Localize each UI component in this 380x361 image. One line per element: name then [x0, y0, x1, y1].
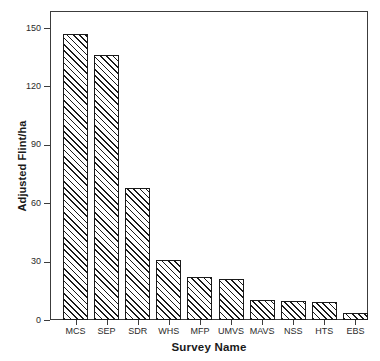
y-tick-label: 120 — [1, 82, 41, 91]
bar-mfp — [187, 277, 212, 320]
x-tick-mark — [138, 320, 139, 325]
bar-sep — [94, 55, 119, 320]
x-tick-label-ebs: EBS — [332, 327, 378, 336]
x-tick-mark — [169, 320, 170, 325]
y-tick-mark — [44, 86, 50, 87]
y-tick-mark — [44, 203, 50, 204]
y-tick-label: 30 — [1, 257, 41, 266]
y-tick-label: 60 — [1, 199, 41, 208]
x-tick-mark — [293, 320, 294, 325]
x-tick-mark — [262, 320, 263, 325]
x-tick-mark — [231, 320, 232, 325]
y-tick-mark — [44, 262, 50, 263]
bar-umvs — [219, 279, 244, 320]
y-tick-label: 0 — [1, 316, 41, 325]
bar-sdr — [125, 188, 150, 320]
x-tick-mark — [107, 320, 108, 325]
bar-nss — [281, 301, 306, 320]
x-tick-mark — [355, 320, 356, 325]
bar-whs — [156, 260, 181, 320]
y-tick-mark — [44, 320, 50, 321]
y-axis-title: Adjusted Flint/ha — [16, 86, 28, 246]
y-tick-mark — [44, 145, 50, 146]
y-tick-mark — [44, 28, 50, 29]
y-tick-label: 150 — [1, 24, 41, 33]
bar-ebs — [343, 313, 368, 320]
x-tick-mark — [76, 320, 77, 325]
y-tick-label: 90 — [1, 140, 41, 149]
x-tick-mark — [200, 320, 201, 325]
bar-chart: Adjusted Flint/ha 0306090120150 MCSSEPSD… — [0, 0, 380, 361]
x-tick-mark — [324, 320, 325, 325]
x-axis-title: Survey Name — [50, 341, 368, 353]
bar-mavs — [250, 300, 275, 320]
bar-hts — [312, 302, 337, 320]
bar-mcs — [63, 34, 88, 320]
